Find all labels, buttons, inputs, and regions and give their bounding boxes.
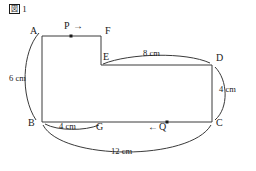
measurement-label-DC: 4 cm [219, 85, 236, 94]
figure-container: 図 1 A F E D C B G P → ← Q 6 cm 8 cm 4 cm… [0, 0, 256, 171]
point-marker-P [70, 35, 73, 38]
vertex-label-G: G [96, 122, 103, 132]
moving-point-label-P: P [64, 21, 70, 31]
vertex-label-D: D [216, 53, 223, 63]
measurement-label-BG: 4 cm [59, 122, 76, 131]
vertex-label-C: C [216, 118, 223, 128]
vertex-label-A: A [30, 26, 37, 36]
moving-point-arrow-Q: ← [148, 122, 158, 132]
vertex-label-E: E [103, 52, 109, 62]
moving-point-label-Q: Q [159, 122, 166, 132]
measurement-label-ED: 8 cm [143, 49, 160, 58]
vertex-label-F: F [105, 26, 111, 36]
measurement-label-AB: 6 cm [9, 74, 26, 83]
vertex-label-B: B [28, 118, 35, 128]
measurement-label-BC: 12 cm [111, 147, 132, 156]
moving-point-arrow-P: → [73, 21, 83, 31]
polygon-ABCDEF [42, 36, 212, 122]
dimension-arc-6cm [25, 33, 39, 120]
